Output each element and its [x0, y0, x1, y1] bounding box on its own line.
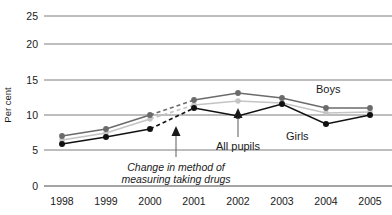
data-point — [235, 90, 241, 96]
series-label-boys: Boys — [316, 83, 341, 95]
data-point — [323, 110, 328, 115]
x-tick-2001: 2001 — [182, 195, 206, 207]
data-point — [59, 141, 65, 147]
data-point — [191, 97, 197, 103]
annotation-method-change: Change in method of measuring taking dru… — [121, 126, 231, 185]
data-point — [279, 101, 285, 107]
all-pupils-arrowhead-icon — [234, 108, 243, 118]
y-axis-title: Per cent — [2, 87, 13, 123]
y-tick-0: 0 — [32, 180, 38, 192]
data-point — [59, 133, 65, 139]
x-tick-1999: 1999 — [94, 195, 118, 207]
series-girls-dashed-break — [150, 108, 194, 129]
y-tick-20: 20 — [26, 38, 38, 50]
method-change-line1: Change in method of — [127, 161, 226, 173]
x-tick-2005: 2005 — [358, 195, 382, 207]
x-axis-tick-labels: 1998 1999 2000 2001 2002 2003 2004 2005 — [50, 195, 382, 207]
data-point — [147, 112, 153, 118]
data-point — [235, 98, 240, 103]
line-chart: 25 20 15 10 5 0 Per cent 1998 1999 2000 … — [0, 0, 392, 215]
data-point — [191, 105, 197, 111]
data-point — [367, 112, 373, 118]
x-tick-1998: 1998 — [50, 195, 74, 207]
method-change-arrowhead-icon — [172, 126, 181, 136]
method-change-line2: measuring taking drugs — [121, 173, 231, 185]
data-point — [279, 95, 285, 101]
data-point — [147, 126, 153, 132]
data-point — [103, 134, 109, 140]
data-point — [323, 121, 329, 127]
data-point — [103, 126, 109, 132]
x-tick-2002: 2002 — [226, 195, 250, 207]
x-tick-2003: 2003 — [270, 195, 294, 207]
y-axis-tick-labels: 25 20 15 10 5 0 — [26, 10, 38, 192]
y-tick-25: 25 — [26, 10, 38, 22]
chart-container: 25 20 15 10 5 0 Per cent 1998 1999 2000 … — [0, 0, 392, 215]
x-tick-2000: 2000 — [138, 195, 162, 207]
data-point — [367, 105, 373, 111]
series-label-all-pupils: All pupils — [216, 140, 261, 152]
y-tick-10: 10 — [26, 109, 38, 121]
data-point — [323, 105, 329, 111]
x-tick-2004: 2004 — [314, 195, 338, 207]
series-label-girls: Girls — [286, 130, 309, 142]
y-tick-5: 5 — [32, 144, 38, 156]
y-tick-15: 15 — [26, 74, 38, 86]
